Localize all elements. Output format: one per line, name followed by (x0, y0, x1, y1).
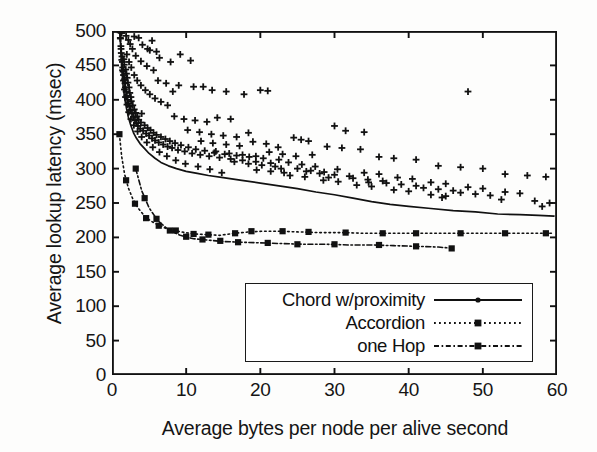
y-tick-label: 400 (6, 89, 106, 111)
marker-square (153, 216, 159, 222)
marker-square (232, 230, 238, 236)
series-markers (133, 166, 455, 252)
marker-square (380, 230, 386, 236)
y-tick-label: 50 (6, 330, 106, 352)
x-tick-label: 50 (453, 379, 513, 401)
legend-sample-svg (432, 313, 524, 333)
y-tick-label: 450 (6, 54, 106, 76)
legend-item[interactable]: Chord w/proximity (252, 288, 524, 311)
legend-sample-svg (432, 336, 524, 356)
marker-square (305, 229, 311, 235)
x-tick-label: 20 (230, 379, 290, 401)
legend-marker-dot (475, 297, 480, 302)
series-one-hop (133, 166, 455, 252)
legend-marker-square (475, 319, 482, 326)
marker-square (331, 241, 337, 247)
x-tick-label: 0 (82, 379, 142, 401)
x-tick-label: 40 (379, 379, 439, 401)
marker-square (449, 245, 455, 251)
marker-square (265, 240, 271, 246)
figure-canvas: Average lookup latency (msec) 5004504003… (0, 0, 597, 452)
marker-square (248, 228, 254, 234)
y-tick-label: 200 (6, 226, 106, 248)
y-tick-label: 300 (6, 158, 106, 180)
marker-square (143, 215, 149, 221)
scatter-cloud (117, 31, 553, 210)
marker-square (413, 243, 419, 249)
y-tick-label: 350 (6, 123, 106, 145)
legend-box: Chord w/proximityAccordionone Hop (245, 283, 533, 362)
marker-square (116, 131, 122, 137)
marker-square (167, 227, 173, 233)
marker-square (235, 239, 241, 245)
x-axis-title: Average bytes per node per alive second (112, 417, 558, 440)
marker-square (376, 242, 382, 248)
y-tick-label: 150 (6, 261, 106, 283)
marker-square (183, 234, 189, 240)
legend-sample-swatch (432, 313, 524, 333)
y-tick-label: 250 (6, 192, 106, 214)
marker-square (217, 238, 223, 244)
legend-item-label: Accordion (345, 312, 425, 334)
marker-square (142, 195, 148, 201)
x-tick-label: 30 (305, 379, 365, 401)
marker-square (199, 236, 205, 242)
legend-item[interactable]: Accordion (252, 311, 524, 334)
marker-square (543, 230, 549, 236)
marker-square (457, 230, 463, 236)
marker-square (343, 229, 349, 235)
legend-sample-svg (432, 290, 524, 310)
marker-square (133, 166, 139, 172)
x-tick-label: 60 (527, 379, 587, 401)
marker-square (502, 230, 508, 236)
marker-square (205, 232, 211, 238)
legend-sample-swatch (432, 336, 524, 356)
marker-square (132, 201, 138, 207)
legend-item-label: one Hop (357, 335, 425, 357)
series-chord-w-proximity (117, 31, 554, 216)
x-tick-label: 10 (156, 379, 216, 401)
series-line (120, 31, 554, 216)
y-tick-label: 100 (6, 295, 106, 317)
marker-square (123, 177, 129, 183)
series-accordion (116, 131, 554, 238)
marker-square (279, 228, 285, 234)
marker-square (413, 230, 419, 236)
legend-item[interactable]: one Hop (252, 334, 524, 357)
marker-square (294, 241, 300, 247)
marker-square (190, 231, 196, 237)
y-tick-label: 500 (6, 20, 106, 42)
legend-sample-swatch (432, 290, 524, 310)
legend-marker-square (475, 342, 482, 349)
legend-item-label: Chord w/proximity (282, 289, 425, 311)
